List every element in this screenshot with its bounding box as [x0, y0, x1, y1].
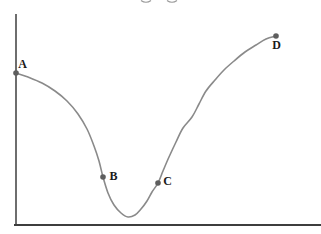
- point-label-b: B: [109, 169, 117, 183]
- curve-path: [16, 36, 276, 217]
- cropped-text-fragment: [141, 1, 151, 3]
- point-label-d: D: [272, 38, 281, 52]
- figure-canvas: ABCD: [0, 0, 321, 234]
- point-label-c: C: [163, 174, 172, 188]
- cropped-text-fragments: [141, 1, 177, 3]
- point-label-a: A: [18, 57, 27, 71]
- curve: [16, 36, 276, 217]
- curve-chart: ABCD: [0, 0, 321, 234]
- data-point-a: [13, 70, 19, 76]
- data-point-c: [155, 180, 161, 186]
- marked-points: ABCD: [13, 33, 281, 188]
- data-point-b: [100, 174, 106, 180]
- cropped-text-fragment: [167, 1, 177, 3]
